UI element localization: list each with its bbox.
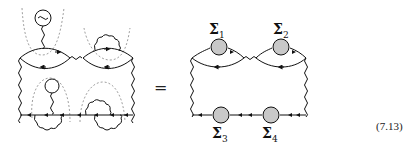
sigma-4-label: Σ4 <box>262 126 278 144</box>
sigma-symbol: Σ <box>273 21 283 37</box>
sigma-1-blob <box>211 39 227 55</box>
sigma-index: 2 <box>283 30 289 40</box>
sigma-index: 1 <box>219 30 225 40</box>
equation-number: (7.13) <box>376 120 403 132</box>
sigma-index: 4 <box>272 134 278 144</box>
sigma-index: 3 <box>222 134 228 144</box>
left-diagram <box>19 8 135 130</box>
sigma-2-blob <box>273 39 289 55</box>
sigma-symbol: Σ <box>209 21 219 37</box>
sigma-symbol: Σ <box>212 125 222 141</box>
sigma-2-label: Σ2 <box>273 22 289 40</box>
sigma-4-blob <box>263 107 279 123</box>
sigma-3-label: Σ3 <box>212 126 228 144</box>
sigma-1-label: Σ1 <box>209 22 225 40</box>
dashed-cut-lines <box>22 8 130 122</box>
sigma-symbol: Σ <box>262 125 272 141</box>
equals-sign: = <box>154 78 167 97</box>
feynman-diagram-equation <box>0 0 413 148</box>
right-diagram <box>191 39 308 123</box>
sigma-3-blob <box>213 107 229 123</box>
